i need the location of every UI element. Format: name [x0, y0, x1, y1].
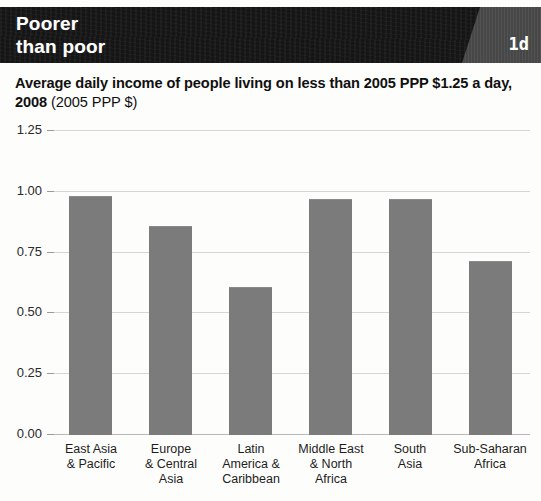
bar-chart-plot: 1.251.000.750.500.250.00East Asia & Paci…	[0, 0, 541, 501]
gridline-1.00	[51, 191, 530, 192]
y-axis-tick-label: 0.25	[2, 365, 42, 380]
gridline-0.75	[51, 252, 530, 253]
y-axis-tick-label: 0.50	[2, 304, 42, 319]
bar	[149, 226, 192, 435]
x-axis-category-label: Middle East & North Africa	[291, 442, 371, 487]
tickmark-0.25	[47, 373, 54, 374]
x-axis-category-label: Europe & Central Asia	[131, 442, 211, 487]
gridline-0.00	[51, 434, 530, 435]
bar	[309, 199, 352, 435]
tickmark-0.75	[47, 252, 54, 253]
y-axis-tick-label: 0.75	[2, 244, 42, 259]
tickmark-0.00	[47, 434, 54, 435]
gridline-0.50	[51, 312, 530, 313]
bar	[69, 196, 112, 435]
y-axis-tick-label: 1.25	[2, 122, 42, 137]
gridline-0.25	[51, 373, 530, 374]
gridline-1.25	[51, 130, 530, 131]
bar	[229, 287, 272, 435]
tickmark-1.00	[47, 191, 54, 192]
chart-page: Poorer than poor 1d Average daily income…	[0, 0, 541, 501]
y-axis-tick-label: 0.00	[2, 426, 42, 441]
x-axis-category-label: South Asia	[370, 442, 450, 472]
tickmark-0.50	[47, 312, 54, 313]
x-axis-category-label: Sub-Saharan Africa	[450, 442, 530, 472]
tickmark-1.25	[47, 130, 54, 131]
y-axis-tick-label: 1.00	[2, 183, 42, 198]
x-axis-category-label: Latin America & Caribbean	[211, 442, 291, 487]
x-axis-category-label: East Asia & Pacific	[51, 442, 131, 472]
bar	[469, 261, 512, 435]
bar	[389, 199, 432, 435]
